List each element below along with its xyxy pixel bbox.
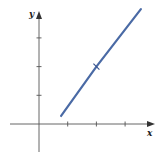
series-group: [61, 9, 141, 116]
line-chart: y x: [0, 0, 162, 160]
x-axis-label: x: [146, 128, 153, 138]
x-axis-arrow-icon: [147, 121, 155, 127]
y-axis-label: y: [28, 9, 35, 19]
series-line: [61, 9, 141, 116]
y-axis-arrow-icon: [36, 11, 42, 19]
